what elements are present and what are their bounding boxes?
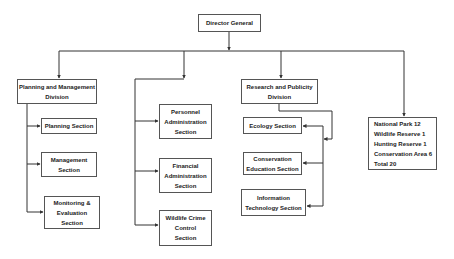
protected-area-line: Wildlife Reserve 1 <box>374 129 425 139</box>
section-label-line: Management <box>51 155 88 165</box>
protected-areas-box: National Park 12 Wildlife Reserve 1 Hunt… <box>368 117 437 170</box>
section-label-line: Financial <box>172 161 198 171</box>
section-label-line: Administration <box>164 117 206 127</box>
personnel-administration-section-box: Personnel Administration Section <box>159 104 212 139</box>
management-section-box: Management Section <box>41 152 97 177</box>
section-label-line: Evaluation <box>57 208 87 218</box>
ecology-section-box: Ecology Section <box>243 117 302 134</box>
section-label-line: Conservation <box>253 154 291 164</box>
protected-area-line: Total 20 <box>374 159 396 169</box>
section-label-line: Section <box>175 181 197 191</box>
section-label-line: Education Section <box>246 164 298 174</box>
section-label-line: Personnel <box>171 107 200 117</box>
section-label-line: Control <box>175 223 196 233</box>
section-label-line: Section <box>175 127 197 137</box>
protected-area-line: Hunting Reserve 1 <box>374 139 427 149</box>
protected-area-line: National Park 12 <box>374 119 421 129</box>
director-general-box: Director General <box>198 14 261 32</box>
division-label-line: Division <box>268 92 291 102</box>
section-label-line: Information <box>257 193 290 203</box>
section-label: Planning Section <box>45 121 94 131</box>
information-technology-section-box: Information Technology Section <box>241 189 306 216</box>
division-label-line: Planning and Management <box>19 82 95 92</box>
financial-administration-section-box: Financial Administration Section <box>159 158 212 193</box>
section-label-line: Technology Section <box>245 203 302 213</box>
planning-management-division-box: Planning and Management Division <box>17 79 97 104</box>
monitoring-evaluation-section-box: Monitoring & Evaluation Section <box>44 196 100 229</box>
section-label-line: Section <box>58 165 80 175</box>
wildlife-crime-control-section-box: Wildlife Crime Control Section <box>159 210 212 246</box>
protected-area-line: Conservation Area 6 <box>374 149 432 159</box>
division-label-line: Research and Publicity <box>246 82 312 92</box>
section-label-line: Section <box>61 218 83 228</box>
section-label-line: Wildlife Crime <box>166 213 206 223</box>
section-label: Ecology Section <box>249 121 296 131</box>
planning-section-box: Planning Section <box>41 118 97 134</box>
section-label-line: Section <box>175 233 197 243</box>
section-label-line: Administration <box>164 171 206 181</box>
section-label-line: Monitoring & <box>54 198 91 208</box>
division-label-line: Division <box>45 92 68 102</box>
conservation-education-section-box: Conservation Education Section <box>243 152 302 175</box>
director-general-label: Director General <box>206 18 253 28</box>
research-publicity-division-box: Research and Publicity Division <box>241 79 318 104</box>
